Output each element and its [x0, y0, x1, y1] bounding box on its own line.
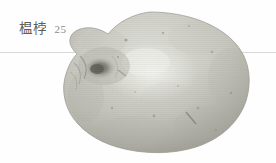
caption-figure-number: 25: [54, 24, 66, 35]
caption-species-name: 榅桲: [19, 22, 47, 36]
body-highlight: [106, 42, 198, 102]
body-mottling: [68, 22, 252, 148]
surface-specks: [111, 25, 232, 131]
caption: 榅桲 25: [19, 22, 66, 36]
quince-body: [60, 8, 258, 158]
calyx-depression: [70, 47, 130, 90]
caption-rule: [0, 52, 276, 53]
quince-outline: [64, 12, 250, 153]
scanned-plate-page: 榅桲 25: [0, 0, 276, 163]
